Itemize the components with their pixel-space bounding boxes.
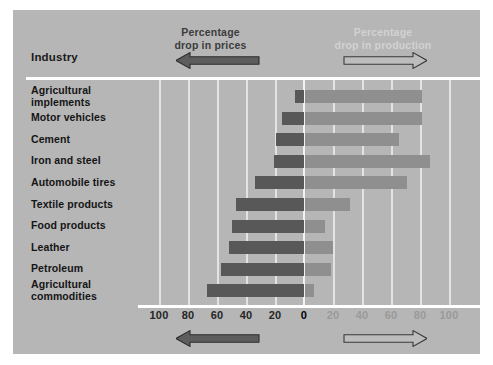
x-tick-right-20: 20	[327, 309, 340, 321]
x-tick-left-60: 60	[211, 309, 224, 321]
bar-price-drop	[221, 263, 304, 276]
left-pointing-arrow-icon	[176, 52, 260, 69]
footer-right-pointing-arrow-icon	[343, 330, 427, 347]
chart-plate: Percentage drop in prices Percentage dro…	[13, 10, 480, 354]
row-label: Textile products	[31, 199, 113, 211]
x-tick-left-20: 20	[269, 309, 282, 321]
figure-canvas: Percentage drop in prices Percentage dro…	[0, 0, 493, 365]
row-label: Automobile tires	[31, 177, 115, 189]
row-label: Agricultural implements	[31, 85, 91, 108]
chart-row: Textile products	[13, 197, 480, 219]
bar-production-drop	[305, 90, 422, 103]
x-tick-right-100: 100	[440, 309, 459, 321]
plot-area: Agricultural implementsMotor vehiclesCem…	[13, 80, 480, 308]
industry-column-heading: Industry	[31, 51, 78, 63]
row-label: Iron and steel	[31, 155, 101, 167]
row-label: Leather	[31, 242, 70, 254]
chart-row: Food products	[13, 219, 480, 241]
right-pointing-arrow-icon	[343, 52, 427, 69]
bar-price-drop	[229, 241, 304, 254]
chart-row: Leather	[13, 240, 480, 262]
bar-production-drop	[305, 220, 325, 233]
chart-row: Iron and steel	[13, 154, 480, 176]
x-tick-zero: 0	[301, 309, 307, 321]
bar-price-drop	[295, 90, 304, 103]
chart-header: Percentage drop in prices Percentage dro…	[13, 10, 480, 77]
footer-left-pointing-arrow-icon	[176, 330, 260, 347]
bar-price-drop	[276, 133, 304, 146]
bar-price-drop	[236, 198, 304, 211]
chart-row: Cement	[13, 132, 480, 154]
bar-price-drop	[282, 112, 304, 125]
left-series-title: Percentage drop in prices	[143, 26, 278, 52]
chart-row: Automobile tires	[13, 175, 480, 197]
x-tick-left-80: 80	[182, 309, 195, 321]
bar-production-drop	[305, 198, 350, 211]
bar-price-drop	[255, 176, 304, 189]
bar-production-drop	[305, 112, 422, 125]
x-axis: 10080604020020406080100	[13, 309, 480, 325]
x-tick-right-60: 60	[385, 309, 398, 321]
right-series-title: Percentage drop in production	[303, 26, 463, 52]
bar-production-drop	[305, 241, 333, 254]
x-tick-left-40: 40	[240, 309, 253, 321]
row-label: Agricultural commodities	[31, 279, 97, 302]
bar-production-drop	[305, 263, 331, 276]
axis-baseline	[138, 305, 480, 308]
chart-row: Agricultural implements	[13, 89, 480, 111]
bar-production-drop	[305, 155, 430, 168]
x-tick-right-80: 80	[414, 309, 427, 321]
chart-row: Motor vehicles	[13, 111, 480, 133]
bar-production-drop	[305, 176, 407, 189]
row-label: Food products	[31, 220, 106, 232]
row-label: Petroleum	[31, 263, 83, 275]
bar-price-drop	[274, 155, 304, 168]
bar-price-drop	[207, 284, 304, 297]
bar-production-drop	[305, 133, 399, 146]
row-label: Cement	[31, 134, 70, 146]
x-tick-right-40: 40	[356, 309, 369, 321]
x-tick-left-100: 100	[150, 309, 169, 321]
row-label: Motor vehicles	[31, 112, 106, 124]
bar-price-drop	[232, 220, 305, 233]
bar-production-drop	[305, 284, 314, 297]
chart-row: Agricultural commodities	[13, 283, 480, 305]
